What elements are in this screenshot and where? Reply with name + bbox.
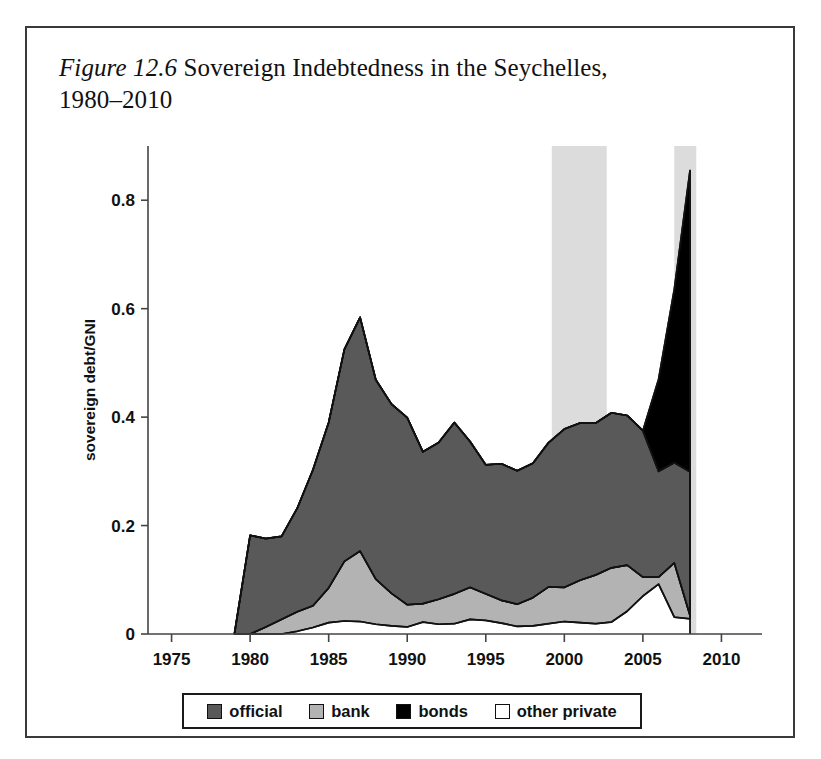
y-tick-label: 0.6 xyxy=(111,300,135,319)
legend-label-official: official xyxy=(229,702,282,721)
x-tick-label: 2005 xyxy=(624,650,662,669)
y-tick-label: 0.8 xyxy=(111,191,135,210)
legend-item-official: official xyxy=(207,702,282,721)
y-tick-label: 0.2 xyxy=(111,517,135,536)
chart-plot-area: 00.20.40.60.8197519801985199019952000200… xyxy=(27,28,797,740)
legend-swatch-other-private xyxy=(495,704,510,719)
x-tick-label: 1980 xyxy=(231,650,269,669)
legend-item-other-private: other private xyxy=(495,702,617,721)
legend-item-bonds: bonds xyxy=(396,702,468,721)
stacked-area-chart: 00.20.40.60.8197519801985199019952000200… xyxy=(27,28,797,740)
y-tick-label: 0.4 xyxy=(111,408,135,427)
legend-item-bank: bank xyxy=(309,702,370,721)
x-tick-label: 1985 xyxy=(310,650,348,669)
x-tick-label: 2010 xyxy=(703,650,741,669)
legend-label-bonds: bonds xyxy=(418,702,468,721)
legend-swatch-bonds xyxy=(396,704,411,719)
legend-swatch-bank xyxy=(309,704,324,719)
x-tick-label: 1975 xyxy=(153,650,191,669)
figure-frame: Figure 12.6 Sovereign Indebtedness in th… xyxy=(25,26,795,738)
y-tick-label: 0 xyxy=(126,625,135,644)
x-tick-label: 1990 xyxy=(388,650,426,669)
legend-label-bank: bank xyxy=(331,702,370,721)
x-tick-label: 2000 xyxy=(545,650,583,669)
chart-legend: official bank bonds other private xyxy=(182,693,642,729)
y-axis-title: sovereign debt/GNI xyxy=(81,319,98,461)
x-tick-label: 1995 xyxy=(467,650,505,669)
legend-label-other-private: other private xyxy=(517,702,617,721)
legend-swatch-official xyxy=(207,704,222,719)
